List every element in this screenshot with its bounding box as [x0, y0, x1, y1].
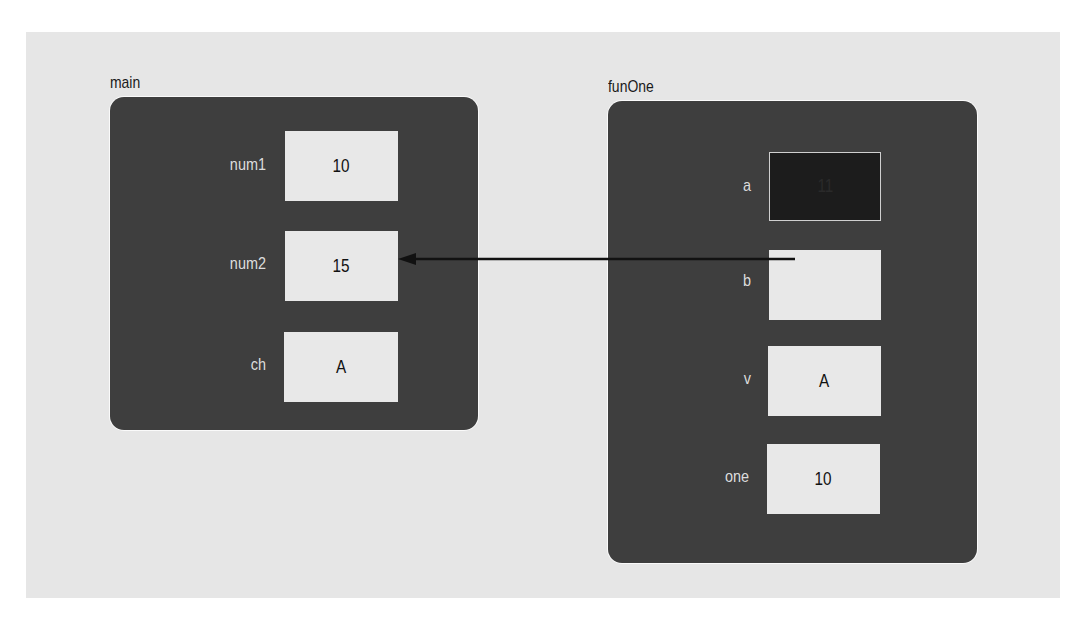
var-label-one: one — [690, 467, 750, 487]
frame-title-main: main — [110, 73, 140, 93]
frame-title-funone: funOne — [608, 77, 654, 97]
var-cell-b — [769, 250, 881, 320]
var-value-v: A — [819, 371, 829, 392]
var-label-a: a — [692, 176, 752, 196]
var-label-num2: num2 — [207, 254, 267, 274]
var-cell-ch: A — [284, 332, 398, 402]
var-cell-a-highlighted: 11 — [769, 152, 881, 221]
var-value-one: 10 — [815, 469, 832, 490]
var-label-b: b — [692, 271, 752, 291]
var-label-num1: num1 — [207, 155, 267, 175]
frame-funone: a 11 b v A one 10 — [608, 101, 977, 563]
var-value-ch: A — [336, 357, 346, 378]
var-value-num2: 15 — [333, 256, 350, 277]
var-cell-one: 10 — [767, 444, 880, 514]
var-cell-num1: 10 — [285, 131, 398, 201]
var-value-a: 11 — [817, 176, 833, 197]
frame-main: num1 10 num2 15 ch A — [110, 97, 478, 430]
var-value-num1: 10 — [333, 156, 350, 177]
var-label-v: v — [692, 369, 752, 389]
var-cell-num2: 15 — [285, 231, 398, 301]
var-cell-v: A — [768, 346, 881, 416]
var-label-ch: ch — [207, 355, 267, 375]
